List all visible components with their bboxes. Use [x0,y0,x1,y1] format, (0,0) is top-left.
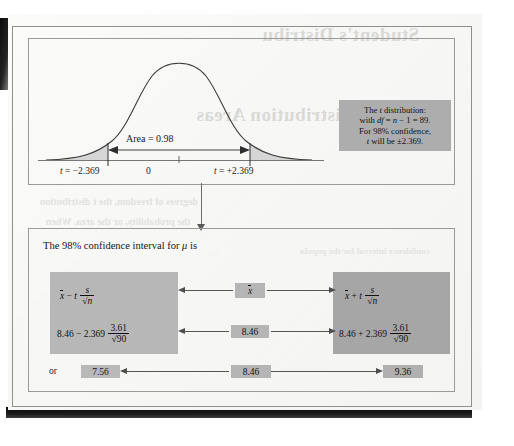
arrow-head-numeric-right-icon [329,328,336,334]
upper-limit-symbolic-formula: x + t s√n [345,285,380,307]
axis-tick-label-center: 0 [146,166,151,176]
t-distribution-curve [34,42,334,172]
interval-heading: The 98% confidence interval for μ is [43,240,197,251]
area-label: Area = 0.98 [126,133,174,144]
sample-mean-value-chip-bottom: 8.46 [231,365,271,378]
panel-connector-line [201,183,202,228]
arrow-head-symbolic-right-icon [329,287,336,293]
lower-limit-symbolic-formula: x − t s√n [60,285,95,307]
arrow-head-symbolic-left-icon [178,287,185,293]
lower-limit-value-chip: 7.56 [81,365,120,378]
callout-line-3: For 98% confidence, [359,126,431,136]
arrow-line-numeric-right [271,331,331,332]
arrow-head-numeric-left-icon [178,328,185,334]
callout-line-4: t will be ±2.369. [367,136,424,146]
sample-mean-value-chip-middle: 8.46 [231,325,269,338]
arrow-line-result-right [271,371,377,372]
upper-limit-numeric-formula: 8.46 + 2.369 3.61√90 [339,323,412,345]
arrow-head-result-left-icon [120,368,127,374]
arrow-head-result-right-icon [376,368,383,374]
arrow-line-symbolic-right [267,290,331,291]
arrow-line-result-left [127,371,229,372]
t-distribution-callout: The t distribution: with df = n − 1 = 89… [339,100,451,151]
arrow-line-symbolic-left [185,290,233,291]
axis-tick-label-right: t = +2.369 [214,166,253,176]
sample-mean-symbol-chip: x [235,283,265,298]
lower-limit-numeric-formula: 8.46 − 2.369 3.61√90 [57,323,130,345]
or-label: or [49,366,57,376]
axis-tick-label-left: t = −2.369 [60,166,99,176]
callout-line-2: with df = n − 1 = 89. [360,115,431,125]
arrow-line-numeric-left [185,331,229,332]
callout-line-1: The t distribution: [364,105,426,115]
upper-limit-value-chip: 9.36 [383,365,423,378]
